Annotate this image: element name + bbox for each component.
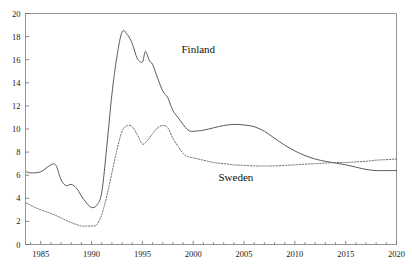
series-annotation-labels: FinlandSweden bbox=[181, 43, 253, 183]
x-tick-label: 2010 bbox=[286, 249, 303, 259]
data-series-group bbox=[27, 31, 397, 227]
y-tick-label: 16 bbox=[12, 55, 21, 65]
y-tick-label: 20 bbox=[12, 9, 21, 19]
y-tick-label: 10 bbox=[12, 124, 21, 134]
series-annotation-sweden: Sweden bbox=[218, 171, 253, 183]
series-annotation-finland: Finland bbox=[181, 43, 215, 55]
y-tick-label: 8 bbox=[16, 147, 20, 157]
y-axis-tick-labels: 02468101214161820 bbox=[12, 9, 21, 250]
y-axis-ticks bbox=[26, 14, 30, 245]
x-tick-label: 1985 bbox=[32, 249, 49, 259]
unemployment-rate-chart: 19851990199520002005201020152020 0246810… bbox=[0, 0, 412, 273]
series-line-sweden bbox=[27, 125, 397, 226]
y-tick-label: 18 bbox=[12, 32, 21, 42]
y-tick-label: 0 bbox=[16, 240, 20, 250]
x-axis-ticks bbox=[31, 241, 397, 245]
series-line-finland bbox=[27, 31, 397, 208]
x-tick-label: 2020 bbox=[388, 249, 405, 259]
y-tick-label: 14 bbox=[12, 78, 21, 88]
x-tick-label: 2000 bbox=[185, 249, 202, 259]
x-axis-tick-labels: 19851990199520002005201020152020 bbox=[32, 249, 405, 259]
x-tick-label: 1990 bbox=[83, 249, 100, 259]
chart-plot-area: 19851990199520002005201020152020 0246810… bbox=[0, 0, 412, 273]
x-tick-label: 1995 bbox=[134, 249, 151, 259]
y-tick-label: 12 bbox=[12, 101, 21, 111]
y-tick-label: 2 bbox=[16, 216, 20, 226]
x-tick-label: 2015 bbox=[337, 249, 354, 259]
x-tick-label: 2005 bbox=[236, 249, 253, 259]
y-tick-label: 6 bbox=[16, 170, 20, 180]
y-tick-label: 4 bbox=[16, 193, 21, 203]
